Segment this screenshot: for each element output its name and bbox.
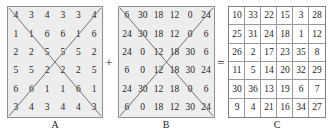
matrix-cell: 16 xyxy=(277,99,293,117)
matrix-cell: 4 xyxy=(24,99,40,117)
matrix-cell: 6 xyxy=(198,80,214,98)
matrix-cell: 30 xyxy=(135,25,151,43)
matrix-cell: 13 xyxy=(261,80,277,98)
matrix-cell: 32 xyxy=(293,62,309,80)
matrix-cell: 5 xyxy=(245,62,261,80)
matrix-cell: 30 xyxy=(135,80,151,98)
matrix-cell: 3 xyxy=(55,7,71,25)
matrix-cell: 11 xyxy=(229,62,245,80)
equals-operator: = xyxy=(214,56,228,69)
matrix-b-label: B xyxy=(151,120,181,130)
matrix-cell: 4 xyxy=(55,99,71,117)
matrix-cell: 24 xyxy=(119,80,135,98)
matrix-cell: 6 xyxy=(71,80,87,98)
matrix-b: 6301812024243018120624012183066012183024… xyxy=(118,6,215,118)
matrix-addition-diagram: 434334116616225552552225661161343443 + 6… xyxy=(0,0,331,139)
matrix-cell: 1 xyxy=(8,25,24,43)
matrix-cell: 12 xyxy=(151,62,167,80)
matrix-cell: 6 xyxy=(39,25,55,43)
matrix-cell: 2 xyxy=(86,44,102,62)
matrix-cell: 18 xyxy=(277,25,293,43)
matrix-cell: 33 xyxy=(245,7,261,25)
matrix-cell: 6 xyxy=(8,80,24,98)
matrix-cell: 34 xyxy=(293,99,309,117)
matrix-a-label: A xyxy=(40,120,70,130)
matrix-cell: 4 xyxy=(71,99,87,117)
matrix-cell: 30 xyxy=(229,80,245,98)
matrix-cell: 1 xyxy=(86,80,102,98)
matrix-cell: 29 xyxy=(309,62,325,80)
matrix-cell: 3 xyxy=(8,99,24,117)
matrix-cell: 15 xyxy=(277,7,293,25)
matrix-cell: 23 xyxy=(277,44,293,62)
matrix-cell: 7 xyxy=(309,80,325,98)
matrix-cell: 18 xyxy=(151,99,167,117)
matrix-cell: 21 xyxy=(261,99,277,117)
matrix-cell: 35 xyxy=(293,44,309,62)
matrix-cell: 8 xyxy=(309,44,325,62)
matrix-cell: 3 xyxy=(86,99,102,117)
plus-operator: + xyxy=(102,56,116,69)
matrix-cell: 9 xyxy=(229,99,245,117)
matrix-cell: 25 xyxy=(229,25,245,43)
matrix-cell: 0 xyxy=(135,44,151,62)
matrix-cell: 12 xyxy=(309,25,325,43)
matrix-cell: 24 xyxy=(198,99,214,117)
matrix-cell: 18 xyxy=(151,25,167,43)
matrix-cell: 5 xyxy=(24,62,40,80)
matrix-cell: 0 xyxy=(182,7,198,25)
matrix-c: 1033221532825312418112262172335811514203… xyxy=(228,6,326,118)
matrix-cell: 4 xyxy=(8,7,24,25)
matrix-cell: 24 xyxy=(198,62,214,80)
matrix-cell: 30 xyxy=(182,62,198,80)
matrix-cell: 27 xyxy=(309,99,325,117)
matrix-cell: 5 xyxy=(8,62,24,80)
matrix-cell: 22 xyxy=(261,7,277,25)
matrix-cell: 24 xyxy=(198,7,214,25)
matrix-cell: 0 xyxy=(182,80,198,98)
matrix-a: 434334116616225552552225661161343443 xyxy=(7,6,103,118)
matrix-cell: 6 xyxy=(198,25,214,43)
matrix-cell: 6 xyxy=(24,80,40,98)
matrix-cell: 2 xyxy=(55,62,71,80)
matrix-cell: 2 xyxy=(245,44,261,62)
matrix-cell: 12 xyxy=(166,7,182,25)
matrix-cell: 2 xyxy=(39,62,55,80)
matrix-cell: 3 xyxy=(71,7,87,25)
matrix-cell: 24 xyxy=(261,25,277,43)
matrix-cell: 12 xyxy=(166,25,182,43)
matrix-cell: 5 xyxy=(86,62,102,80)
matrix-cell: 2 xyxy=(8,44,24,62)
matrix-cell: 30 xyxy=(182,44,198,62)
matrix-cell: 18 xyxy=(166,62,182,80)
matrix-cell: 24 xyxy=(119,44,135,62)
matrix-cell: 18 xyxy=(166,80,182,98)
matrix-cell: 26 xyxy=(229,44,245,62)
matrix-cell: 1 xyxy=(39,80,55,98)
matrix-cell: 24 xyxy=(119,25,135,43)
matrix-cell: 20 xyxy=(277,62,293,80)
matrix-cell: 18 xyxy=(151,7,167,25)
matrix-cell: 30 xyxy=(182,99,198,117)
matrix-cell: 2 xyxy=(24,44,40,62)
matrix-cell: 18 xyxy=(166,44,182,62)
matrix-cell: 1 xyxy=(24,25,40,43)
matrix-cell: 5 xyxy=(39,44,55,62)
matrix-cell: 1 xyxy=(55,80,71,98)
matrix-b-grid: 6301812024243018120624012183066012183024… xyxy=(119,7,214,117)
matrix-cell: 6 xyxy=(55,25,71,43)
matrix-cell: 12 xyxy=(166,99,182,117)
matrix-c-grid: 1033221532825312418112262172335811514203… xyxy=(229,7,325,117)
matrix-cell: 6 xyxy=(119,62,135,80)
matrix-cell: 4 xyxy=(245,99,261,117)
matrix-cell: 6 xyxy=(86,25,102,43)
matrix-cell: 28 xyxy=(309,7,325,25)
matrix-cell: 4 xyxy=(86,7,102,25)
matrix-cell: 19 xyxy=(277,80,293,98)
matrix-cell: 3 xyxy=(24,7,40,25)
matrix-a-grid: 434334116616225552552225661161343443 xyxy=(8,7,102,117)
matrix-cell: 17 xyxy=(261,44,277,62)
matrix-cell: 30 xyxy=(135,7,151,25)
matrix-cell: 3 xyxy=(39,99,55,117)
matrix-cell: 2 xyxy=(71,62,87,80)
